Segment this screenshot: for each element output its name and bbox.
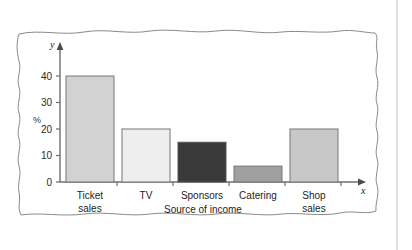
bar-catering (234, 166, 282, 182)
page-divider (396, 0, 398, 250)
y-axis-letter: y (49, 39, 55, 50)
x-category-label-catering: Catering (239, 190, 277, 201)
bar-shop-sales (290, 129, 338, 182)
y-tick-label-40: 40 (41, 71, 53, 82)
bar-sponsors (178, 142, 226, 182)
y-tick-label-30: 30 (41, 97, 53, 108)
y-tick-label-10: 10 (41, 150, 53, 161)
chart-canvas: 0 10 20 30 40 y x % (0, 0, 412, 250)
x-category-label-ticket-sales-line2: sales (78, 203, 101, 214)
x-category-label-sponsors: Sponsors (181, 190, 223, 201)
bar-chart: 0 10 20 30 40 y x % (0, 0, 412, 250)
page-background: 0 10 20 30 40 y x % (0, 0, 412, 250)
x-category-label-tv: TV (140, 190, 153, 201)
x-category-label-shop-sales-line1: Shop (302, 190, 326, 201)
x-category-label-ticket-sales-line1: Ticket (77, 190, 104, 201)
x-category-label-shop-sales-line2: sales (302, 203, 325, 214)
y-tick-label-0: 0 (46, 177, 52, 188)
x-axis-letter: x (360, 185, 366, 196)
y-axis-unit-label: % (33, 115, 41, 125)
bar-ticket-sales (66, 76, 114, 182)
x-axis-title: Source of income (164, 204, 242, 215)
y-tick-label-20: 20 (41, 124, 53, 135)
bar-tv (122, 129, 170, 182)
y-axis (57, 42, 64, 182)
